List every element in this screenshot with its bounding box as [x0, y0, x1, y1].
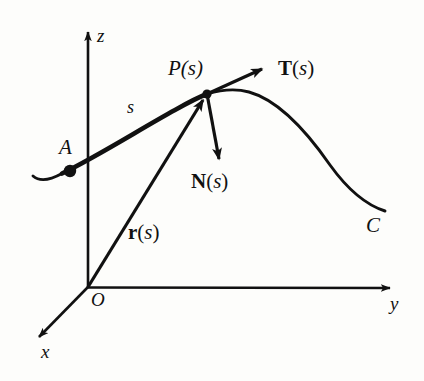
normal-paren-close: ): [221, 169, 228, 193]
tangent-vector-name: T: [278, 56, 292, 80]
normal-vector-label: N(s): [191, 171, 228, 192]
curve-name-label: C: [366, 215, 380, 236]
x-axis-label: x: [41, 342, 49, 361]
curve-segment-after-P: [207, 90, 385, 211]
origin-label: O: [91, 290, 105, 309]
position-vector-label: r(s): [128, 222, 160, 243]
y-axis: [88, 288, 390, 289]
normal-vector-name: N: [191, 169, 206, 193]
normal-vector-arrow: [207, 94, 219, 159]
point-P-label: P(s): [168, 58, 203, 79]
curve-frenet-frame-figure: z y x O A s P(s) C T(s) N(s) r(s): [0, 0, 424, 381]
point-A-marker: [64, 165, 76, 177]
position-vector-name: r: [128, 220, 137, 244]
position-paren-close: ): [153, 220, 160, 244]
y-axis-label: y: [390, 294, 398, 313]
tangent-paren-close: ): [307, 56, 314, 80]
arclength-label: s: [127, 98, 134, 116]
curve-segment-before-A: [33, 174, 62, 180]
tangent-arg: s: [299, 56, 307, 80]
curve-arclength-segment: [62, 94, 207, 174]
x-axis: [39, 287, 88, 337]
position-arg: s: [144, 220, 152, 244]
point-A-label: A: [59, 137, 72, 158]
tangent-vector-label: T(s): [278, 58, 314, 79]
tangent-paren-open: (: [292, 56, 299, 80]
z-axis-label: z: [97, 26, 104, 45]
